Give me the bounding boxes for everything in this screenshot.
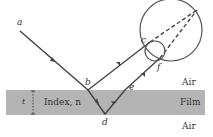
label-film: Film bbox=[180, 98, 201, 107]
film-layer bbox=[6, 90, 205, 115]
label-thickness: t bbox=[22, 98, 25, 106]
eye-convergence-lines bbox=[150, 10, 197, 58]
label-a: a bbox=[17, 18, 22, 27]
label-air-top: Air bbox=[182, 78, 196, 87]
label-e: e bbox=[129, 83, 134, 92]
label-air-bottom: Air bbox=[182, 122, 196, 131]
label-b: b bbox=[85, 78, 91, 87]
label-index: Index, n bbox=[44, 98, 81, 107]
label-c: c bbox=[141, 36, 146, 45]
label-d: d bbox=[102, 118, 108, 127]
label-f: f bbox=[157, 63, 160, 72]
eye-icon bbox=[140, 0, 202, 61]
